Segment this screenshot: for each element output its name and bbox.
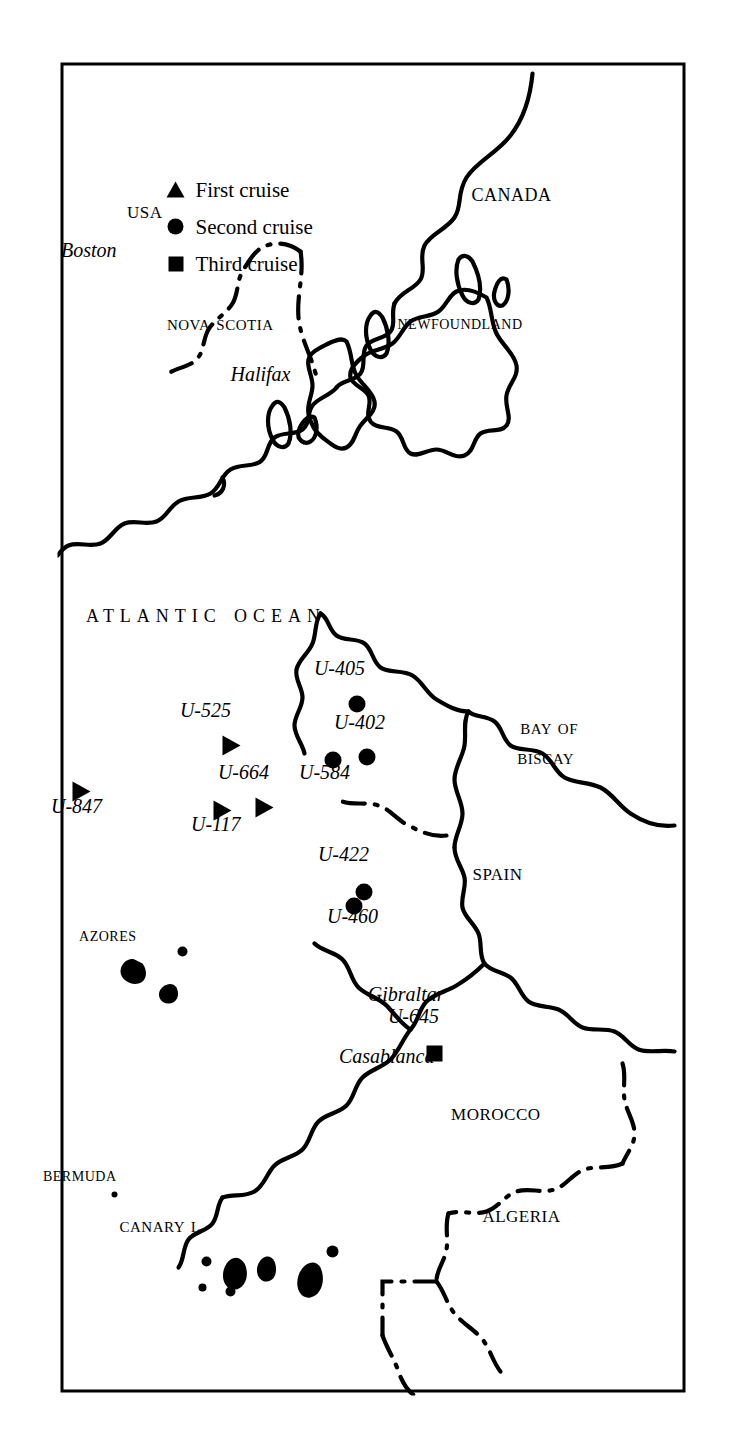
region-label-morocco: Morocco	[451, 1100, 540, 1124]
region-label-algeria: Algeria	[482, 1202, 560, 1226]
marker-label-u-525: U-525	[179, 699, 230, 722]
region-label-bay-of-biscay-line2: Biscay	[517, 747, 574, 768]
city-label-halifax: Halifax	[230, 364, 290, 384]
region-label-spain: Spain	[472, 860, 522, 884]
legend-label-third-cruise: Third cruise	[195, 251, 297, 276]
region-label-azores: Azores	[79, 924, 136, 944]
canary-islands-shapes	[198, 1246, 338, 1298]
marker-label-u-422: U-422	[317, 843, 368, 866]
triangle-icon	[162, 182, 188, 198]
marker-label-u-405: U-405	[313, 657, 364, 680]
marker-u-664[interactable]	[255, 798, 273, 818]
marker-label-u-460: U-460	[327, 905, 378, 928]
marker-u-402[interactable]	[359, 748, 376, 765]
legend-label-first-cruise: First cruise	[195, 177, 289, 202]
region-label-canada: Canada	[471, 180, 551, 206]
rotated-map-container: Canada USA Newfoundland Nova Scotia Hali…	[60, 63, 685, 1393]
marker-label-u-402: U-402	[333, 711, 384, 734]
marker-u-645[interactable]	[426, 1046, 442, 1062]
legend-item-third-cruise[interactable]: Third cruise	[162, 250, 312, 278]
legend-item-second-cruise[interactable]: Second cruise	[162, 213, 312, 241]
azores-islands	[120, 947, 187, 1004]
square-icon	[162, 256, 188, 271]
circle-icon	[162, 219, 188, 235]
figure-page: Canada USA Newfoundland Nova Scotia Hali…	[0, 0, 745, 1455]
city-label-gibraltar: Gibraltar	[367, 984, 444, 1004]
map-frame-border: Canada USA Newfoundland Nova Scotia Hali…	[60, 63, 685, 1393]
region-label-bermuda: Bermuda	[42, 1164, 116, 1184]
region-label-nova-scotia: Nova Scotia	[166, 312, 273, 334]
marker-label-u-847: U-847	[51, 795, 102, 818]
region-label-usa: USA	[126, 198, 162, 222]
marker-label-u-584: U-584	[299, 761, 350, 784]
region-label-canary-islands: Canary I.	[119, 1215, 202, 1236]
city-label-casablanca: Casablanca	[338, 1046, 434, 1066]
marker-u-422[interactable]	[356, 883, 373, 900]
legend-item-first-cruise[interactable]: First cruise	[162, 176, 312, 204]
marker-label-u-664: U-664	[217, 761, 268, 784]
legend: First cruise Second cruise Third cruise	[162, 176, 312, 287]
marker-label-u-117: U-117	[191, 813, 241, 836]
region-label-newfoundland: Newfoundland	[397, 312, 522, 332]
ocean-label-atlantic: Atlantic Ocean	[85, 601, 325, 626]
marker-u-405[interactable]	[349, 695, 366, 712]
legend-label-second-cruise: Second cruise	[195, 214, 312, 239]
marker-u-525[interactable]	[222, 736, 240, 756]
city-label-boston: Boston	[60, 240, 116, 260]
region-label-bay-of-biscay-line1: Bay of	[520, 717, 578, 738]
bermuda-dot	[111, 1192, 117, 1198]
marker-label-u-645: U-645	[387, 1005, 438, 1028]
